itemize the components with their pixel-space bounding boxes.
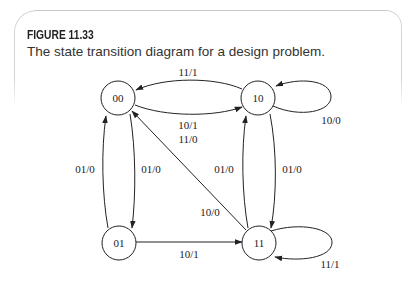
state-01: 01 [102, 226, 136, 260]
edge-00-to-01 [130, 114, 135, 228]
edge-00-to-10 [135, 105, 242, 114]
edge-label-10-to-00: 11/1 [178, 66, 197, 78]
edge-label-01-to-11: 10/1 [179, 248, 199, 260]
edge-label-10-to-11: 01/0 [282, 163, 302, 175]
edge-01-to-00 [103, 116, 108, 228]
edge-10-to-11 [270, 114, 275, 228]
edge-label-10-self-loop: 10/0 [321, 114, 341, 126]
edge-10-to-00 [136, 80, 242, 90]
edge-label-11-to-00: 10/0 [200, 206, 220, 218]
edge-11-self-loop [271, 227, 332, 259]
state-00-label: 00 [113, 92, 125, 104]
state-11: 11 [242, 226, 276, 260]
edge-label-00-to-01: 01/0 [141, 163, 161, 175]
state-diagram: 11/1 10/1 11/0 10/0 01/0 01/0 01/0 01/0 … [0, 0, 418, 284]
state-01-label: 01 [114, 237, 125, 249]
edge-11-to-10 [243, 116, 248, 228]
state-10-label: 10 [253, 92, 265, 104]
edge-label-01-to-00: 01/0 [75, 163, 95, 175]
edge-10-self-loop [273, 81, 331, 112]
state-11-label: 11 [254, 237, 265, 249]
state-00: 00 [101, 81, 135, 115]
edge-label-00-to-10-b: 11/0 [178, 133, 198, 145]
state-10: 10 [241, 81, 275, 115]
edge-label-11-self-loop: 11/1 [320, 258, 339, 270]
edge-label-11-to-10: 01/0 [214, 163, 234, 175]
edge-label-00-to-10-a: 10/1 [178, 119, 198, 131]
